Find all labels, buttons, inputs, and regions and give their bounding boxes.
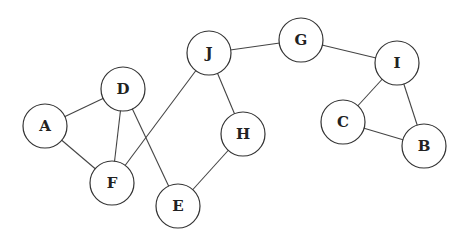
node-H: H xyxy=(221,112,265,156)
graph-canvas: ADFEJHGICB xyxy=(0,0,466,245)
node-label: F xyxy=(107,174,118,192)
node-I: I xyxy=(375,41,419,85)
node-label: C xyxy=(337,113,349,131)
node-label: I xyxy=(393,54,400,72)
node-C: C xyxy=(321,100,365,144)
node-label: H xyxy=(236,125,250,143)
node-D: D xyxy=(101,67,145,111)
node-G: G xyxy=(279,18,323,62)
node-E: E xyxy=(156,184,200,228)
node-label: E xyxy=(172,197,183,215)
node-B: B xyxy=(402,124,446,168)
node-label: D xyxy=(116,80,129,98)
node-J: J xyxy=(187,31,231,75)
node-label: J xyxy=(203,44,212,62)
node-label: G xyxy=(295,31,308,49)
graph-diagram: ADFEJHGICB xyxy=(0,0,466,245)
node-label: A xyxy=(38,117,51,135)
node-A: A xyxy=(23,104,67,148)
node-F: F xyxy=(90,161,134,205)
node-label: B xyxy=(418,137,431,155)
